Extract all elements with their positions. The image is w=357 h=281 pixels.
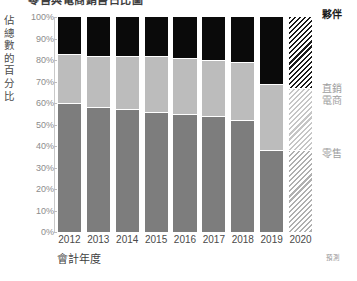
y-axis-tick-mark xyxy=(54,82,57,83)
y-axis-tick-labels: 0%10%20%30%40%50%60%70%80%90%100% xyxy=(18,0,54,281)
y-axis-tick-mark xyxy=(54,17,57,18)
y-axis-tick-label: 40% xyxy=(36,142,54,151)
bar-segment-partners[interactable] xyxy=(116,17,139,56)
bar-segment-partners[interactable] xyxy=(202,17,225,60)
legend-item-direct-line2: 電商 xyxy=(322,95,342,107)
bar-segment-direct[interactable] xyxy=(173,58,196,114)
y-axis-tick-mark xyxy=(54,146,57,147)
x-axis-tick-label-2016: 2016 xyxy=(171,234,200,245)
bar-segment-direct[interactable] xyxy=(231,62,254,120)
bar-segment-retail[interactable] xyxy=(289,150,312,232)
y-axis-tick-mark xyxy=(54,39,57,40)
bar-segment-retail[interactable] xyxy=(87,107,110,232)
y-axis-tick-mark xyxy=(54,125,57,126)
bar-segment-direct[interactable] xyxy=(260,84,283,151)
y-axis-tick-label: 10% xyxy=(36,206,54,215)
bar-2014[interactable] xyxy=(116,17,139,232)
bar-segment-partners[interactable] xyxy=(231,17,254,62)
y-axis-tick-label: 30% xyxy=(36,163,54,172)
bar-segment-direct[interactable] xyxy=(87,56,110,108)
bar-segment-direct[interactable] xyxy=(58,54,81,103)
bar-segment-partners[interactable] xyxy=(260,17,283,84)
bar-2016[interactable] xyxy=(173,17,196,232)
x-axis-title: 會計年度 xyxy=(57,250,101,266)
y-axis-tick-label: 90% xyxy=(36,34,54,43)
y-axis-tick-mark xyxy=(54,211,57,212)
x-axis-tick-label-2012: 2012 xyxy=(55,234,84,245)
bar-segment-partners[interactable] xyxy=(289,17,312,88)
bar-segment-retail[interactable] xyxy=(202,116,225,232)
bar-segment-retail[interactable] xyxy=(58,103,81,232)
y-axis-tick-label: 20% xyxy=(36,185,54,194)
bar-segment-partners[interactable] xyxy=(58,17,81,54)
plot-area xyxy=(55,17,315,232)
bar-segment-retail[interactable] xyxy=(260,150,283,232)
bar-2019[interactable] xyxy=(260,17,283,232)
bar-2017[interactable] xyxy=(202,17,225,232)
x-axis-tick-label-2018: 2018 xyxy=(228,234,257,245)
legend-item-direct: 直銷 電商 xyxy=(322,83,342,107)
x-axis-tick-labels: 201220132014201520162017201820192020 xyxy=(55,234,315,250)
y-axis-tick-label: 100% xyxy=(31,13,54,22)
stacked-bar-chart: 零售與電商銷售占比圖 佔總數的百分比 0%10%20%30%40%50%60%7… xyxy=(0,0,357,281)
y-axis-tick-mark xyxy=(54,232,57,233)
legend-item-direct-line1: 直銷 xyxy=(322,83,342,95)
bar-segment-partners[interactable] xyxy=(145,17,168,56)
legend-item-retail: 零售 xyxy=(322,148,342,160)
bar-segment-partners[interactable] xyxy=(87,17,110,56)
bar-segment-partners[interactable] xyxy=(173,17,196,58)
y-axis-tick-label: 70% xyxy=(36,77,54,86)
bar-segment-direct[interactable] xyxy=(202,60,225,116)
bar-2015[interactable] xyxy=(145,17,168,232)
bar-2018[interactable] xyxy=(231,17,254,232)
y-axis-tick-label: 0% xyxy=(41,228,54,237)
y-axis-tick-mark xyxy=(54,103,57,104)
bar-2013[interactable] xyxy=(87,17,110,232)
y-axis-title: 佔總數的百分比 xyxy=(2,14,16,102)
y-axis-tick-mark xyxy=(54,189,57,190)
y-axis-tick-mark xyxy=(54,60,57,61)
bar-2012[interactable] xyxy=(58,17,81,232)
x-axis-tick-label-2019: 2019 xyxy=(257,234,286,245)
bar-segment-retail[interactable] xyxy=(173,114,196,232)
x-axis-tick-label-2013: 2013 xyxy=(84,234,113,245)
bar-segment-retail[interactable] xyxy=(145,112,168,232)
x-axis-tick-label-2015: 2015 xyxy=(142,234,171,245)
x-axis-tick-label-2017: 2017 xyxy=(199,234,228,245)
x-axis-tick-label-2014: 2014 xyxy=(113,234,142,245)
y-axis-tick-mark xyxy=(54,168,57,169)
bar-segment-retail[interactable] xyxy=(116,109,139,232)
y-axis-tick-label: 80% xyxy=(36,56,54,65)
bar-2020[interactable] xyxy=(289,17,312,232)
bar-segment-direct[interactable] xyxy=(145,56,168,112)
y-axis-tick-label: 50% xyxy=(36,120,54,129)
y-axis-tick-label: 60% xyxy=(36,99,54,108)
forecast-note: 預測 xyxy=(326,252,340,262)
bar-segment-direct[interactable] xyxy=(289,88,312,150)
legend-item-partners: 夥伴 xyxy=(322,9,342,21)
x-axis-tick-label-2020: 2020 xyxy=(286,234,315,245)
bar-segment-direct[interactable] xyxy=(116,56,139,110)
bar-segment-retail[interactable] xyxy=(231,120,254,232)
